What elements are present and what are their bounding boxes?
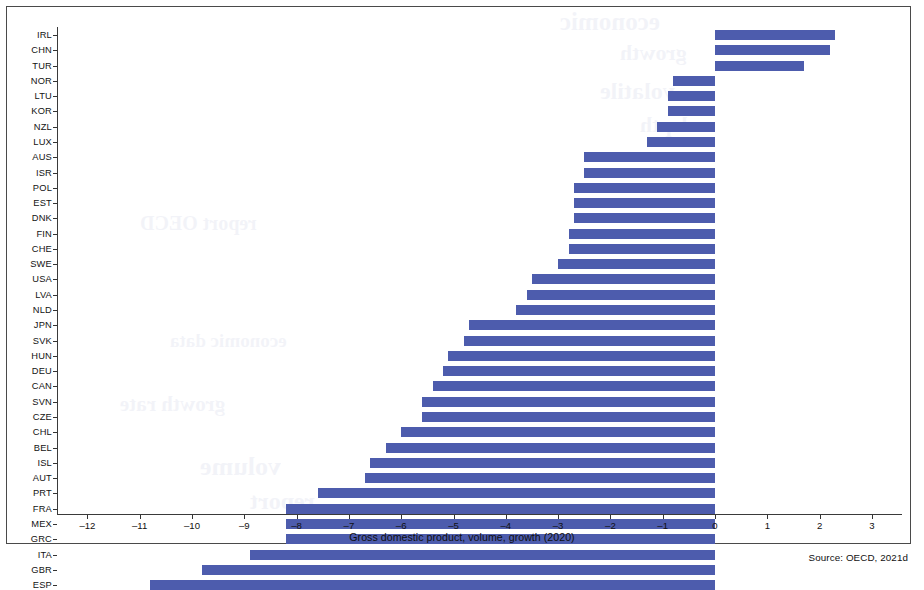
y-axis-tick-mark <box>53 356 57 357</box>
y-axis-tick-label: AUS <box>32 152 52 162</box>
y-axis-tick-label: DEU <box>32 366 52 376</box>
x-axis-tick-mark <box>140 515 141 519</box>
y-axis-tick-mark <box>53 310 57 311</box>
bar <box>584 152 715 162</box>
y-axis-tick-mark <box>53 157 57 158</box>
x-axis-tick-mark <box>244 515 245 519</box>
x-axis-tick-mark <box>767 515 768 519</box>
x-axis-tick-label: 0 <box>712 520 717 531</box>
y-axis-tick-mark <box>53 493 57 494</box>
y-axis-tick-mark <box>53 295 57 296</box>
y-axis-tick-mark <box>53 463 57 464</box>
bar <box>286 504 715 514</box>
y-axis-tick-label: CHE <box>32 244 52 254</box>
y-axis-tick-label: NOR <box>31 76 52 86</box>
y-axis-tick-label: SWE <box>30 259 52 269</box>
x-axis-tick-label: –5 <box>448 520 459 531</box>
x-axis-tick-label: –6 <box>396 520 407 531</box>
y-axis-tick-mark <box>53 325 57 326</box>
y-axis-tick-label: FIN <box>36 229 52 239</box>
x-axis-tick-label: –3 <box>553 520 564 531</box>
x-axis-tick-mark <box>558 515 559 519</box>
y-axis-tick-label: AUT <box>33 473 52 483</box>
x-axis-tick-label: 2 <box>817 520 822 531</box>
bar <box>365 473 715 483</box>
y-axis-tick-mark <box>53 402 57 403</box>
y-axis-tick-label: POL <box>33 183 52 193</box>
bar <box>574 183 715 193</box>
bar <box>448 351 715 361</box>
bar <box>370 458 715 468</box>
y-axis-tick-label: EST <box>33 198 52 208</box>
y-axis-tick-mark <box>53 203 57 204</box>
y-axis-tick-mark <box>53 50 57 51</box>
y-axis-tick-label: ESP <box>33 580 52 590</box>
x-axis-tick-label: 1 <box>765 520 770 531</box>
y-axis-tick-mark <box>53 524 57 525</box>
y-axis-tick-label: ISL <box>37 458 52 468</box>
y-axis-tick-mark <box>53 509 57 510</box>
y-axis-tick-label: DNK <box>32 213 52 223</box>
y-axis-tick-label: MEX <box>31 519 52 529</box>
bar <box>657 122 715 132</box>
x-axis-tick-label: –11 <box>132 520 147 531</box>
y-axis-tick-mark <box>53 188 57 189</box>
bar <box>443 366 715 376</box>
x-axis-tick-label: –2 <box>605 520 616 531</box>
x-axis-tick-label: –10 <box>184 520 200 531</box>
y-axis-tick-label: CZE <box>33 412 52 422</box>
x-axis-tick-mark <box>297 515 298 519</box>
y-axis-tick-mark <box>53 555 57 556</box>
bar <box>715 61 804 71</box>
x-axis-tick-mark <box>715 515 716 519</box>
y-axis-tick-mark <box>53 585 57 586</box>
bar <box>668 106 715 116</box>
y-axis-tick-label: GBR <box>31 565 52 575</box>
x-axis-tick-label: 3 <box>869 520 874 531</box>
x-axis-tick-label: –4 <box>500 520 511 531</box>
y-axis-tick-label: SVN <box>32 397 52 407</box>
x-axis-tick-mark <box>87 515 88 519</box>
y-axis-tick-mark <box>53 66 57 67</box>
y-axis-tick-label: CHL <box>33 427 52 437</box>
y-axis-tick-mark <box>53 386 57 387</box>
y-axis-tick-label: CHN <box>31 45 52 55</box>
x-axis-tick-mark <box>192 515 193 519</box>
y-axis-tick-mark <box>53 448 57 449</box>
y-axis-tick-label: ISR <box>36 168 52 178</box>
x-axis-tick-mark <box>820 515 821 519</box>
y-axis-tick-label: FRA <box>33 504 52 514</box>
bar <box>516 305 715 315</box>
x-axis-tick-mark <box>663 515 664 519</box>
bar <box>668 91 715 101</box>
bar <box>558 259 715 269</box>
x-axis-tick-label: –8 <box>291 520 302 531</box>
bar <box>569 244 715 254</box>
y-axis-tick-label: USA <box>32 274 52 284</box>
y-axis-tick-label: NZL <box>34 122 52 132</box>
y-axis-tick-label: SVK <box>33 336 52 346</box>
y-axis-tick-mark <box>53 264 57 265</box>
y-axis-tick-mark <box>53 218 57 219</box>
y-axis-tick-mark <box>53 432 57 433</box>
y-axis-tick-label: IRL <box>37 30 52 40</box>
bar <box>318 488 715 498</box>
y-axis-tick-mark <box>53 279 57 280</box>
y-axis-tick-label: HUN <box>31 351 52 361</box>
y-axis-tick-mark <box>53 111 57 112</box>
x-axis-line <box>57 514 902 515</box>
bar <box>422 412 715 422</box>
bar <box>532 274 715 284</box>
y-axis-tick-mark <box>53 35 57 36</box>
y-axis-tick-mark <box>53 371 57 372</box>
bar <box>386 443 715 453</box>
y-axis-tick-mark <box>53 234 57 235</box>
x-axis-tick-mark <box>349 515 350 519</box>
y-axis-tick-mark <box>53 341 57 342</box>
y-axis-tick-mark <box>53 96 57 97</box>
bar <box>647 137 715 147</box>
x-axis-tick-label: –12 <box>79 520 95 531</box>
y-axis-tick-label: JPN <box>34 320 52 330</box>
y-axis-tick-label: BEL <box>34 443 52 453</box>
